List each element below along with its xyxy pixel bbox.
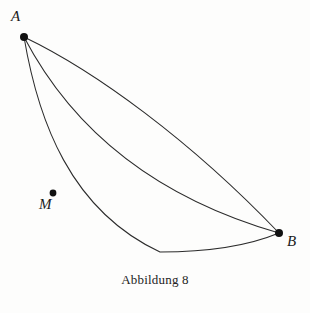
curve-group bbox=[24, 37, 279, 252]
brachistochrone-diagram bbox=[0, 0, 310, 313]
figure-container: A B M Abbildung 8 bbox=[0, 0, 310, 313]
point-b-label: B bbox=[287, 234, 296, 249]
point-group bbox=[20, 33, 283, 237]
point-a-label: A bbox=[11, 9, 20, 24]
straight-chord-path bbox=[24, 37, 279, 233]
point-a-dot bbox=[20, 33, 28, 41]
cycloid-path bbox=[24, 37, 279, 252]
figure-caption: Abbildung 8 bbox=[0, 272, 310, 288]
point-b-dot bbox=[275, 229, 283, 237]
point-m-label: M bbox=[39, 197, 52, 212]
circular-arc-path bbox=[24, 37, 279, 233]
